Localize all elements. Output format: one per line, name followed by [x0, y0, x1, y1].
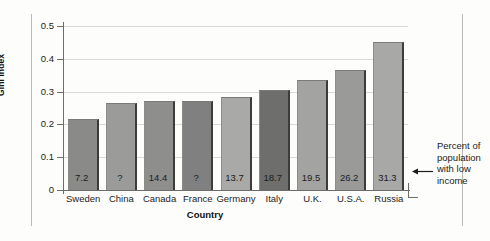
x-axis-tick-label: Russia [364, 194, 414, 204]
y-axis-title: Gini index [0, 54, 6, 96]
annotation-line: with low [437, 163, 490, 175]
bar: ? [106, 103, 137, 190]
axis-bracket [408, 183, 418, 198]
bar-value-label: 31.3 [374, 173, 400, 183]
bar: ? [182, 101, 213, 190]
y-axis-tick-label: 0.2 [28, 119, 54, 129]
y-axis-tick-label: 0.4 [28, 54, 54, 64]
bar-value-label: 19.5 [298, 173, 324, 183]
page-margin-rule-right [462, 14, 463, 226]
y-axis-tick-label: 0.1 [28, 152, 54, 162]
chart-figure: Gini index 00.10.20.30.40.5 7.2?14.4?13.… [0, 0, 490, 241]
bar-value-label: ? [183, 173, 209, 183]
annotation-line: income [437, 175, 490, 187]
gridline [64, 59, 408, 60]
bar-value-label: 26.2 [336, 173, 362, 183]
bar: 18.7 [259, 90, 290, 190]
bar: 14.4 [144, 101, 175, 190]
plot-area: 7.2?14.4?13.718.719.526.231.3 [64, 26, 408, 190]
x-axis-title: Country [150, 209, 260, 220]
gridline [64, 26, 408, 27]
bar: 7.2 [68, 119, 99, 190]
annotation-line: population [437, 152, 490, 164]
bar-value-label: 18.7 [260, 173, 286, 183]
bar-value-label: 7.2 [69, 173, 95, 183]
y-axis-tick-label: 0 [28, 185, 54, 195]
left-arrow-icon [412, 167, 434, 176]
annotation-percent-low-income: Percent ofpopulationwith lowincome [437, 140, 490, 186]
y-axis-tick-label: 0.5 [28, 21, 54, 31]
bar: 26.2 [335, 70, 366, 190]
bar: 13.7 [221, 97, 252, 190]
bar: 19.5 [297, 80, 328, 190]
bar-value-label: 14.4 [145, 173, 171, 183]
x-axis-line [63, 190, 410, 191]
bar-value-label: 13.7 [222, 173, 248, 183]
y-axis-tick-label: 0.3 [28, 87, 54, 97]
bar-value-label: ? [107, 173, 133, 183]
annotation-line: Percent of [437, 140, 490, 152]
bar: 31.3 [373, 42, 404, 190]
